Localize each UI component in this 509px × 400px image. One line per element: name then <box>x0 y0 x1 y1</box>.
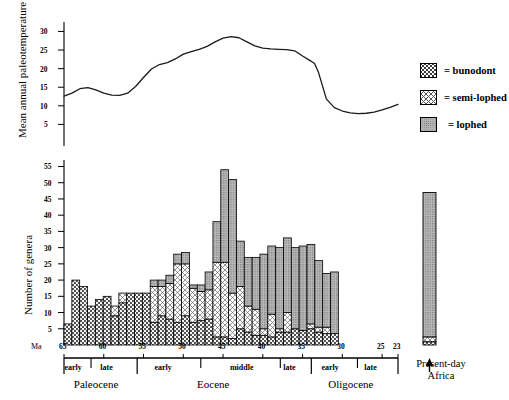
bar-segment <box>166 275 174 283</box>
genera-tick-35: 35 <box>44 227 52 236</box>
bar-segment <box>307 244 315 324</box>
bar-segment <box>189 285 197 288</box>
present-day-africa-segment <box>423 342 436 345</box>
bar-segment <box>174 254 182 264</box>
bar-segment <box>331 272 339 334</box>
bar-segment <box>236 329 244 345</box>
bar-segment <box>197 285 205 291</box>
present-day-line1: Present-day <box>416 358 466 369</box>
genera-tick-10: 10 <box>44 309 52 318</box>
bar-segment <box>150 322 158 345</box>
bar-segment <box>182 316 190 345</box>
epoch-subdivision-3: middle <box>230 363 254 372</box>
time-tick-30: 30 <box>337 342 345 351</box>
ma-axis-label: Ma <box>31 342 42 351</box>
bar-segment <box>229 339 237 345</box>
epoch-subdivision-0: early <box>65 363 82 372</box>
figure-root: Mean annual paleotemperature at 45° nort… <box>0 0 509 400</box>
genera-tick-5: 5 <box>48 325 52 334</box>
present-day-africa-segment <box>423 192 436 336</box>
bar-segment <box>268 314 276 337</box>
bar-segment <box>252 257 260 309</box>
bar-segment <box>268 337 276 345</box>
bar-segment <box>307 324 315 329</box>
bar-segment <box>205 290 213 319</box>
bar-segment <box>205 319 213 345</box>
bar-segment <box>174 264 182 322</box>
bar-segment <box>166 319 174 345</box>
bar-segment <box>299 246 307 330</box>
epoch-paleocene: Paleocene <box>74 378 119 390</box>
bar-segment <box>119 293 127 303</box>
bar-segment <box>103 296 111 345</box>
bar-segment <box>150 280 158 286</box>
temp-tick-30: 30 <box>40 27 48 36</box>
bar-segment <box>158 316 166 345</box>
time-tick-23: 23 <box>393 342 401 351</box>
epoch-subdivision-2: early <box>154 363 171 372</box>
bar-segment <box>80 287 88 345</box>
bar-segment <box>95 300 103 345</box>
temp-tick-5: 5 <box>44 120 48 129</box>
bar-segment <box>268 246 276 314</box>
bar-segment <box>221 262 229 337</box>
epoch-subdivision-5: early <box>321 363 338 372</box>
epoch-oligocene: Oligocene <box>328 378 373 390</box>
time-tick-25: 25 <box>377 342 385 351</box>
time-tick-50: 50 <box>178 342 186 351</box>
bar-segment <box>236 287 244 329</box>
temp-tick-15: 15 <box>40 83 48 92</box>
bar-segment <box>315 327 323 332</box>
bar-segment <box>213 262 221 337</box>
bar-segment <box>150 287 158 323</box>
bar-segment <box>197 321 205 345</box>
bar-segment <box>182 253 190 264</box>
present-day-africa-label: Present-day Africa <box>398 358 484 382</box>
bar-segment <box>197 291 205 320</box>
bar-segment <box>88 306 96 345</box>
bar-segment <box>213 222 221 263</box>
genera-tick-25: 25 <box>44 260 52 269</box>
bar-segment <box>189 322 197 345</box>
bar-segment <box>166 283 174 319</box>
bar-segment <box>323 327 331 333</box>
bar-segment <box>111 316 119 345</box>
genera-tick-30: 30 <box>44 244 52 253</box>
genera-tick-50: 50 <box>44 179 52 188</box>
temp-tick-25: 25 <box>40 46 48 55</box>
bar-segment <box>283 313 291 332</box>
bar-segment <box>229 179 237 293</box>
bar-segment <box>182 264 190 316</box>
genera-tick-45: 45 <box>44 195 52 204</box>
bar-segment <box>323 334 331 345</box>
bar-segment <box>244 306 252 332</box>
bar-segment <box>276 329 284 332</box>
genera-tick-55: 55 <box>44 162 52 171</box>
time-tick-65: 65 <box>59 342 67 351</box>
time-tick-35: 35 <box>298 342 306 351</box>
present-day-africa-segment <box>423 337 436 342</box>
bar-segment <box>221 170 229 262</box>
temp-tick-10: 10 <box>40 102 48 111</box>
bar-segment <box>315 332 323 345</box>
bar-segment <box>323 274 331 328</box>
epoch-eocene: Eocene <box>197 378 229 390</box>
bar-segment <box>315 261 323 328</box>
bar-segment <box>252 309 260 335</box>
bar-segment <box>276 248 284 329</box>
time-tick-45: 45 <box>218 342 226 351</box>
bar-segment <box>135 293 143 345</box>
bar-segment <box>307 329 315 345</box>
genera-tick-15: 15 <box>44 292 52 301</box>
bar-segment <box>236 241 244 286</box>
epoch-subdivision-1: late <box>100 363 112 372</box>
bar-segment <box>127 293 135 345</box>
bar-segment <box>291 248 299 329</box>
paleotemperature-curve <box>64 37 398 114</box>
present-day-line2: Africa <box>428 370 455 381</box>
bar-segment <box>189 288 197 322</box>
time-tick-60: 60 <box>99 342 107 351</box>
bar-segment <box>158 287 166 316</box>
bar-segment <box>119 303 127 345</box>
bar-segment <box>244 257 252 306</box>
